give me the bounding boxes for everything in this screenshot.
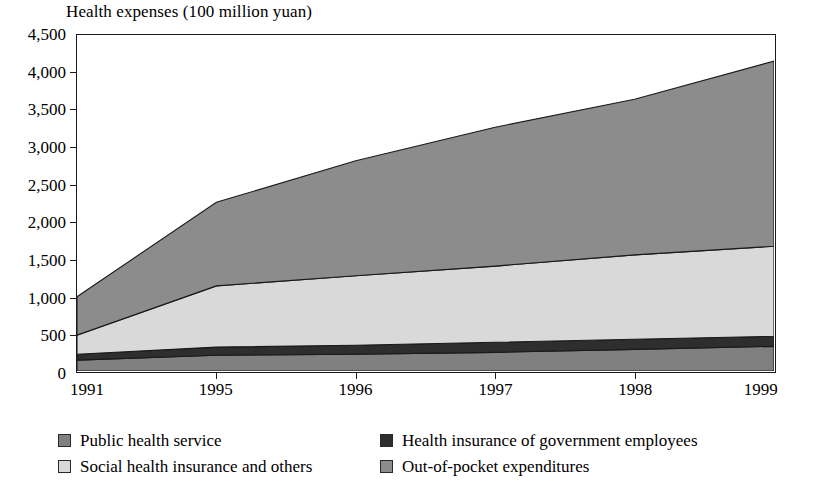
- legend-label: Health insurance of government employees: [402, 432, 698, 449]
- x-tick-label: 1999: [744, 381, 778, 398]
- x-tick-mark: [495, 373, 496, 379]
- legend-row: Public health serviceHealth insurance of…: [58, 427, 798, 453]
- stacked-area-series: [77, 35, 774, 371]
- chart-title: Health expenses (100 million yuan): [66, 2, 312, 22]
- plot-area: [76, 34, 776, 373]
- y-tick-label: 3,500: [28, 101, 66, 118]
- legend-row: Social health insurance and othersOut-of…: [58, 453, 798, 479]
- legend-label: Public health service: [80, 432, 222, 449]
- chart-figure: Health expenses (100 million yuan) 05001…: [0, 0, 813, 502]
- y-tick-label: 0: [58, 365, 67, 382]
- legend-public-health-service[interactable]: Public health service: [58, 432, 380, 449]
- y-tick-label: 1,500: [28, 252, 66, 269]
- y-tick-label: 4,500: [28, 26, 66, 43]
- legend-health-insurance-government-employees[interactable]: Health insurance of government employees: [380, 432, 698, 449]
- x-tick-label: 1991: [70, 381, 104, 398]
- x-tick-mark: [635, 373, 636, 379]
- legend-social-health-insurance[interactable]: Social health insurance and others: [58, 458, 380, 475]
- x-tick-label: 1997: [478, 381, 512, 398]
- chart-legend: Public health serviceHealth insurance of…: [58, 427, 798, 479]
- y-tick-label: 2,500: [28, 176, 66, 193]
- legend-swatch-icon: [380, 460, 393, 473]
- y-axis: 05001,0001,5002,0002,5003,0003,5004,0004…: [0, 0, 76, 400]
- legend-label: Social health insurance and others: [80, 458, 312, 475]
- x-tick-mark: [216, 373, 217, 379]
- y-tick-label: 500: [41, 327, 67, 344]
- legend-out-of-pocket-expenditures[interactable]: Out-of-pocket expenditures: [380, 458, 589, 475]
- legend-swatch-icon: [58, 434, 71, 447]
- y-tick-label: 1,000: [28, 289, 66, 306]
- y-tick-label: 2,000: [28, 214, 66, 231]
- y-tick-label: 4,000: [28, 63, 66, 80]
- legend-swatch-icon: [58, 460, 71, 473]
- x-tick-label: 1998: [618, 381, 652, 398]
- legend-swatch-icon: [380, 434, 393, 447]
- legend-label: Out-of-pocket expenditures: [402, 458, 589, 475]
- x-tick-label: 1995: [199, 381, 233, 398]
- y-tick-label: 3,000: [28, 139, 66, 156]
- x-tick-label: 1996: [339, 381, 373, 398]
- x-tick-mark: [356, 373, 357, 379]
